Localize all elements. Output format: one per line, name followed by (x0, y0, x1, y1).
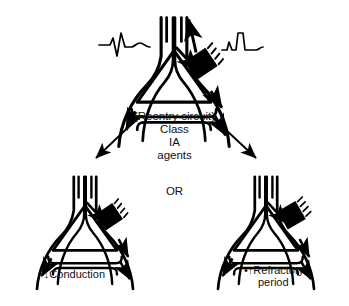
reentry-circuit-label: (Reentry circuit) (0, 110, 349, 124)
outcome-refractory-line1: •↑Refractory (244, 264, 304, 276)
retrograde-arrow (189, 19, 196, 52)
ecg-trace-left (99, 33, 150, 56)
agents-label: agents (0, 149, 349, 163)
class-label: Class (0, 123, 349, 137)
outcome-refractory-line2: period (244, 276, 304, 288)
outcome-label-refractory: •↑Refractoryperiod (244, 264, 304, 289)
or-connector-label: OR (0, 185, 349, 199)
class-ia-label: IA (0, 136, 349, 150)
outcome-label-conduction: •↓Conduction (40, 268, 105, 281)
diagram-canvas: (Reentry circuit) Class IA agents OR •↓C… (0, 0, 349, 306)
ecg-trace-right (222, 33, 263, 50)
